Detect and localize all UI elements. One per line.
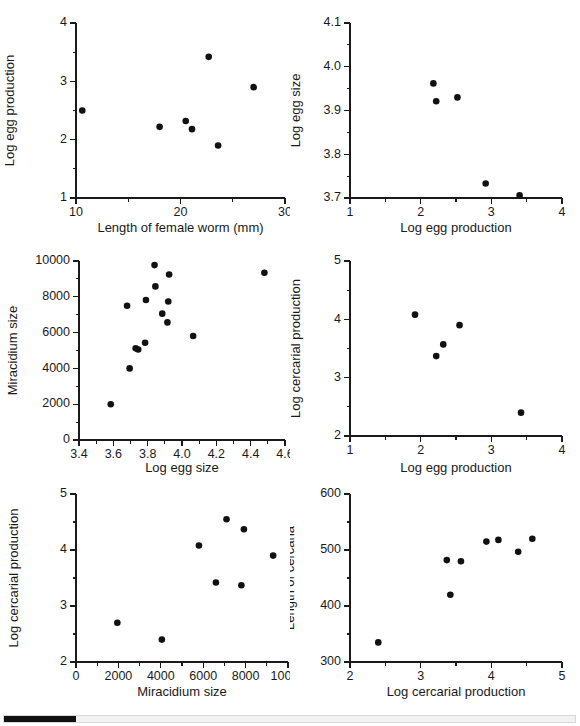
scatter-plot-svg: 1020301234Length of female worm (mm)Log … bbox=[0, 0, 290, 242]
y-tick-label: 500 bbox=[320, 542, 341, 556]
data-point bbox=[213, 579, 220, 586]
data-point bbox=[447, 592, 454, 599]
x-tick-label: 3 bbox=[417, 669, 424, 683]
data-point bbox=[515, 548, 522, 555]
y-tick-label: 3.7 bbox=[324, 190, 341, 204]
y-tick-label: 2 bbox=[334, 428, 341, 442]
y-tick-label: 3.8 bbox=[324, 147, 341, 161]
data-point bbox=[238, 582, 245, 589]
chart-panel-1: 1020301234Length of female worm (mm)Log … bbox=[0, 0, 290, 242]
data-point bbox=[495, 537, 502, 544]
y-tick-label: 3.9 bbox=[324, 103, 341, 117]
data-point bbox=[124, 302, 131, 309]
y-tick-label: 2000 bbox=[42, 396, 70, 410]
x-tick-label: 2 bbox=[347, 669, 354, 683]
data-point bbox=[159, 636, 166, 643]
data-point bbox=[412, 311, 419, 318]
axis-lines bbox=[76, 494, 288, 662]
x-tick-label: 3 bbox=[488, 205, 495, 219]
data-point bbox=[159, 310, 166, 317]
y-tick-label: 5 bbox=[334, 253, 341, 267]
y-tick-label: 600 bbox=[320, 486, 341, 500]
y-tick-label: 2 bbox=[60, 654, 67, 668]
x-tick-label: 8000 bbox=[232, 669, 260, 683]
x-tick-label: 4000 bbox=[147, 669, 175, 683]
data-point bbox=[223, 516, 230, 523]
y-axis-title: Log cercarial production bbox=[290, 279, 303, 418]
x-tick-label: 4 bbox=[488, 669, 495, 683]
y-tick-label: 8000 bbox=[42, 289, 70, 303]
y-tick-label: 3 bbox=[60, 74, 67, 88]
y-tick-label: 3 bbox=[334, 370, 341, 384]
horizontal-scrollbar-track[interactable] bbox=[3, 715, 576, 723]
data-point bbox=[166, 271, 173, 278]
y-tick-label: 6000 bbox=[42, 325, 70, 339]
data-point bbox=[529, 536, 536, 543]
y-tick-label: 300 bbox=[320, 654, 341, 668]
y-tick-label: 1 bbox=[60, 190, 67, 204]
x-tick-label: 4.2 bbox=[208, 447, 225, 461]
data-point bbox=[189, 126, 196, 133]
data-point bbox=[454, 94, 461, 101]
data-point bbox=[142, 340, 149, 347]
chart-panel-2: 12343.73.83.94.04.1Log egg productionLog… bbox=[290, 0, 580, 242]
data-point bbox=[270, 552, 277, 559]
data-point bbox=[190, 333, 197, 340]
x-tick-label: 4 bbox=[559, 443, 566, 457]
y-axis-title: Log egg size bbox=[290, 74, 303, 148]
data-point bbox=[482, 180, 489, 187]
x-axis-title: Log egg production bbox=[400, 220, 511, 235]
x-tick-label: 1 bbox=[347, 205, 354, 219]
y-tick-label: 4.0 bbox=[324, 59, 341, 73]
data-point bbox=[164, 319, 171, 326]
x-tick-label: 6000 bbox=[189, 669, 217, 683]
x-tick-label: 30 bbox=[278, 205, 290, 219]
axis-lines bbox=[350, 261, 562, 436]
data-point bbox=[433, 353, 440, 360]
data-point bbox=[79, 107, 86, 114]
data-point bbox=[107, 401, 114, 408]
data-point bbox=[483, 538, 490, 545]
scatter-plot-svg: 3.43.63.84.04.24.44.60200040006000800010… bbox=[0, 240, 290, 482]
y-tick-label: 400 bbox=[320, 598, 341, 612]
bottom-scroll-area bbox=[0, 712, 580, 726]
x-tick-label: 4 bbox=[559, 205, 566, 219]
y-tick-label: 0 bbox=[63, 432, 70, 446]
figure-panel-grid: 1020301234Length of female worm (mm)Log … bbox=[0, 0, 580, 710]
y-tick-label: 4 bbox=[60, 542, 67, 556]
data-point bbox=[143, 297, 150, 304]
horizontal-scrollbar-thumb[interactable] bbox=[4, 716, 76, 722]
x-axis-title: Length of female worm (mm) bbox=[97, 220, 263, 235]
data-point bbox=[516, 192, 523, 199]
data-point bbox=[205, 54, 212, 61]
x-tick-label: 5 bbox=[559, 669, 566, 683]
x-tick-label: 4.4 bbox=[242, 447, 259, 461]
scatter-plot-svg: 02000400060008000100002345Miracidium siz… bbox=[0, 472, 290, 714]
y-axis-title: Length of cercaria bbox=[290, 525, 297, 630]
data-point bbox=[114, 620, 121, 627]
x-tick-label: 2 bbox=[417, 205, 424, 219]
x-tick-label: 20 bbox=[174, 205, 188, 219]
data-point bbox=[215, 142, 222, 149]
data-point bbox=[250, 84, 257, 91]
data-point bbox=[135, 346, 142, 353]
data-point bbox=[151, 262, 158, 269]
data-point bbox=[458, 558, 465, 565]
x-axis-title: Miracidium size bbox=[137, 684, 227, 699]
chart-panel-6: 2345300400500600Log cercarial production… bbox=[290, 472, 580, 714]
data-point bbox=[241, 526, 248, 533]
data-point bbox=[165, 298, 172, 305]
data-point bbox=[440, 341, 447, 348]
data-point bbox=[182, 118, 189, 125]
x-tick-label: 2000 bbox=[104, 669, 132, 683]
y-axis-title: Log egg production bbox=[2, 55, 17, 166]
y-tick-label: 4000 bbox=[42, 361, 70, 375]
x-tick-label: 10000 bbox=[271, 669, 290, 683]
data-point bbox=[430, 80, 437, 87]
y-tick-label: 5 bbox=[60, 486, 67, 500]
axis-lines bbox=[79, 261, 285, 440]
data-point bbox=[156, 124, 163, 131]
chart-panel-3: 3.43.63.84.04.24.44.60200040006000800010… bbox=[0, 240, 290, 482]
data-point bbox=[126, 365, 133, 372]
scatter-plot-svg: 2345300400500600Log cercarial production… bbox=[290, 472, 580, 714]
